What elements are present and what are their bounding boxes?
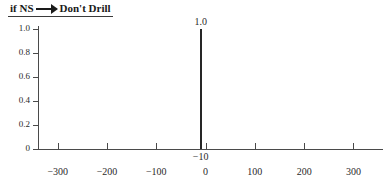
y-tick-mark <box>33 149 39 150</box>
x-tick-mark <box>156 143 157 149</box>
x-axis-line <box>38 149 383 150</box>
y-tick-label: 0.8 <box>4 48 30 57</box>
chart-figure: if NS Don't Drill 00.20.40.60.81.0 −300−… <box>0 0 386 186</box>
y-tick-label-text: 0.8 <box>6 48 30 57</box>
y-tick-label: 0.6 <box>4 72 30 81</box>
y-tick-label-text: 0 <box>6 144 30 153</box>
x-tick-mark <box>58 143 59 149</box>
y-axis-line <box>38 26 39 150</box>
y-tick-mark <box>33 29 39 30</box>
y-tick-label: 0.2 <box>4 120 30 129</box>
y-tick-label: 1.0 <box>4 24 30 33</box>
x-tick-label: 300 <box>323 166 383 177</box>
y-tick-label-text: 1.0 <box>6 24 30 33</box>
spike-value-label: 1.0 <box>181 16 221 27</box>
y-tick-label-text: 0.4 <box>6 96 30 105</box>
y-tick-mark <box>33 77 39 78</box>
y-tick-mark <box>33 125 39 126</box>
y-tick-mark <box>33 101 39 102</box>
x-tick-mark <box>255 143 256 149</box>
x-tick-mark <box>304 143 305 149</box>
spike-bar <box>200 29 202 149</box>
y-tick-label: 0.4 <box>4 96 30 105</box>
x-tick-mark <box>206 143 207 149</box>
y-tick-label: 0 <box>4 144 30 153</box>
plot-area: 00.20.40.60.81.0 −300−200−1000100200300 … <box>0 0 386 186</box>
spike-x-label: −10 <box>179 151 223 162</box>
x-tick-mark <box>107 143 108 149</box>
y-tick-mark <box>33 53 39 54</box>
y-tick-label-text: 0.2 <box>6 120 30 129</box>
y-tick-label-text: 0.6 <box>6 72 30 81</box>
x-tick-mark <box>353 143 354 149</box>
